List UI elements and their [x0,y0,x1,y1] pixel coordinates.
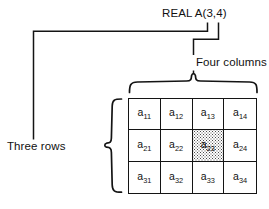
matrix-cell-a33: a33 [193,162,225,193]
matrix-cell-subscript: 23 [207,144,215,153]
matrix-cell-a32: a32 [161,162,193,193]
matrix-cell-label: a34 [233,171,247,185]
matrix-cell-subscript: 32 [175,176,183,185]
matrix-cell-subscript: 34 [239,176,247,185]
three-rows-label: Three rows [7,141,66,153]
matrix-cell-label: a23 [201,139,215,153]
matrix-cell-subscript: 24 [239,144,247,153]
matrix-cell-label: a31 [137,171,151,185]
declaration-label: REAL A(3,4) [162,8,227,20]
matrix-cell-subscript: 12 [175,113,183,122]
matrix-cell-a22: a22 [161,130,193,161]
matrix-cell-subscript: 22 [175,144,183,153]
matrix-cell-label: a32 [169,171,183,185]
matrix-cell-label: a12 [169,107,183,121]
matrix-cell-a13: a13 [193,99,225,130]
leader-line-four-columns [194,23,219,56]
matrix-cell-label: a21 [137,139,151,153]
matrix-cell-a14: a14 [224,99,256,130]
matrix-cell-subscript: 31 [143,176,151,185]
matrix-cell-label: a24 [233,139,247,153]
matrix-cell-label: a14 [233,107,247,121]
four-columns-label: Four columns [196,57,267,69]
matrix-cell-a23: a23 [193,130,225,161]
matrix-cell-label: a11 [138,107,152,121]
matrix-cell-label: a33 [201,171,215,185]
matrix-cell-subscript: 13 [207,113,215,122]
matrix-cell-subscript: 14 [239,113,247,122]
brace-four-columns [130,74,258,93]
matrix-grid: a11a12a13a14a21a22a23a24a31a32a33a34 [128,98,257,194]
matrix-cell-a31: a31 [129,162,161,193]
matrix-cell-a12: a12 [161,99,193,130]
matrix-cell-subscript: 33 [207,176,215,185]
matrix-cell-a24: a24 [224,130,256,161]
matrix-cell-a21: a21 [129,130,161,161]
matrix-cell-label: a13 [201,107,215,121]
array-declaration-diagram: REAL A(3,4) Four columns Three rows a11a… [0,0,269,209]
matrix-cell-subscript: 21 [143,144,151,153]
matrix-cell-a11: a11 [129,99,161,130]
matrix-cell-label: a22 [169,139,183,153]
matrix-cell-subscript: 11 [143,113,151,122]
brace-three-rows [105,99,122,192]
matrix-cell-a34: a34 [224,162,256,193]
